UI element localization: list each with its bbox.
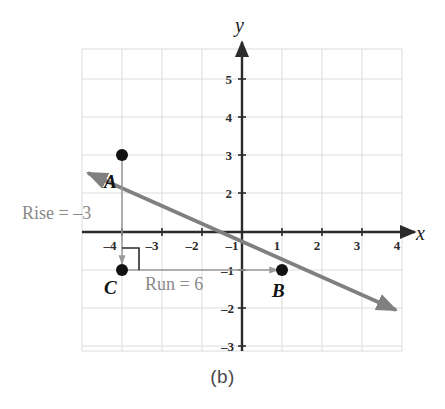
y-tick-label: –2 [220,301,234,316]
rise-label: Rise = –3 [22,203,91,223]
figure-page: x y –4 –3 –2 –1 1 2 3 4 [0,0,445,409]
point-a-label: A [103,171,117,192]
x-tick-label: 1 [274,238,281,253]
x-tick-label: 2 [314,238,321,253]
y-tick-label: 4 [226,110,233,125]
x-tick-label: –3 [145,238,160,253]
x-tick-label: 3 [354,238,361,253]
x-tick-label: 4 [394,238,401,253]
point-c [116,264,128,276]
y-axis-label: y [233,14,244,37]
x-axis-label: x [415,222,425,244]
x-tick-label: –4 [103,238,118,253]
figure-caption: (b) [0,366,445,388]
run-label: Run = 6 [145,274,203,294]
y-tick-label: 3 [226,148,233,163]
y-tick-label: 2 [226,186,233,201]
point-c-label: C [104,277,117,298]
y-tick-label: 5 [226,72,233,87]
y-tick-label: –3 [220,339,235,354]
y-tick-labels: 5 4 3 2 –1 –2 –3 [220,72,235,354]
point-a [116,149,128,161]
coordinate-plane-figure: x y –4 –3 –2 –1 1 2 3 4 [0,0,445,409]
point-b-label: B [271,280,285,301]
x-tick-label: –2 [185,238,199,253]
axes [82,42,415,351]
point-b [276,264,288,276]
